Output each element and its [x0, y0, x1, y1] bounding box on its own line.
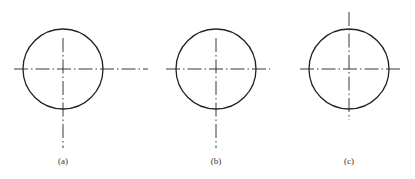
panel-b [166, 29, 270, 148]
panel-c [300, 12, 400, 120]
centerline-diagram [0, 0, 415, 179]
panel-label-c: (c) [344, 157, 354, 166]
panel-label-b: (b) [211, 157, 222, 166]
panel-label-a: (a) [58, 157, 68, 166]
panel-a [14, 29, 148, 148]
